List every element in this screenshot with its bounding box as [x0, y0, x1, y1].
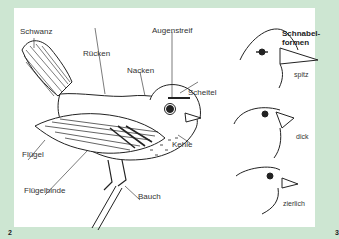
- beak-label-zierlich: zierlich: [283, 200, 305, 207]
- label-nape: Nacken: [127, 67, 154, 75]
- label-tail: Schwanz: [20, 28, 52, 36]
- beak-label-dick: dick: [296, 133, 308, 140]
- label-wing: Flügel: [22, 151, 44, 159]
- label-eyestripe: Augenstreif: [152, 27, 192, 35]
- beak-shapes-title-2: formen: [282, 39, 309, 47]
- page-number-left: 2: [8, 229, 12, 236]
- page-number-right: 3: [335, 229, 339, 236]
- label-belly: Bauch: [138, 193, 161, 201]
- beak-label-spitz: spitz: [294, 71, 308, 78]
- label-wingbar: Flügelbinde: [24, 187, 65, 195]
- label-crown: Scheitel: [188, 89, 216, 97]
- beak-shapes-title-1: Schnabel-: [282, 30, 320, 38]
- label-throat: Kehle: [172, 141, 192, 149]
- label-back: Rücken: [83, 50, 110, 58]
